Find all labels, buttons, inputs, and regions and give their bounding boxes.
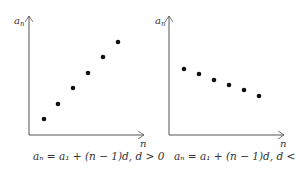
- left-y-label: an: [14, 15, 25, 28]
- right-x-label: n: [280, 138, 286, 149]
- left-data-points: [42, 40, 121, 122]
- diagram-canvas: an n an n: [0, 0, 297, 175]
- right-data-points: [182, 67, 262, 99]
- right-caption: aₙ = a₁ + (n − 1)d, d < 0: [174, 150, 297, 162]
- left-x-label: n: [140, 138, 146, 149]
- right-plot: an n: [155, 15, 286, 149]
- left-caption: aₙ = a₁ + (n − 1)d, d > 0: [33, 150, 164, 162]
- left-plot: an n: [14, 15, 146, 149]
- right-y-label: an: [155, 15, 166, 28]
